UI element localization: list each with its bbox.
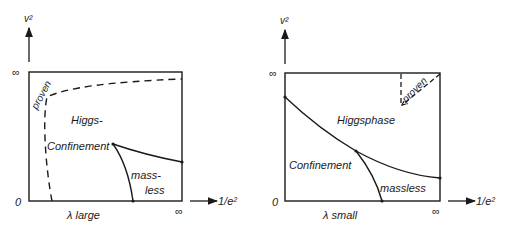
- right-x-right-tick: ∞: [432, 205, 440, 217]
- left-y-top-tick: ∞: [12, 66, 20, 78]
- left-higgs-label: Higgs-: [71, 114, 103, 126]
- right-massless-label: massless: [380, 182, 426, 194]
- right-confinement-massless-boundary: [356, 151, 382, 201]
- right-caption: λ small: [322, 209, 358, 221]
- left-higgs-massless-boundary: [113, 144, 182, 162]
- left-y-axis-label: v²: [24, 13, 33, 24]
- left-y-origin-tick: 0: [15, 196, 22, 208]
- right-confinement-label: Confinement: [289, 159, 352, 171]
- left-phase-diagram: v² ∞ 0 ∞ 1/e² λ large proven Higgs- Conf…: [12, 13, 237, 221]
- left-massless-label-2: less: [145, 184, 165, 196]
- left-caption: λ large: [66, 209, 100, 221]
- right-phase-diagram: v² ∞ 0 ∞ 1/e² λ small proven Higgsphase …: [269, 15, 495, 221]
- phase-diagrams: v² ∞ 0 ∞ 1/e² λ large proven Higgs- Conf…: [0, 0, 514, 234]
- right-y-top-tick: ∞: [269, 67, 277, 79]
- left-confinement-label: Confinement: [47, 140, 110, 152]
- right-x-axis-label: 1/e²: [476, 195, 495, 207]
- right-proven-label: proven: [399, 75, 429, 105]
- left-x-axis-label: 1/e²: [218, 195, 237, 207]
- right-y-axis-label: v²: [280, 15, 289, 26]
- left-proven-label: proven: [29, 78, 54, 111]
- left-box: [29, 72, 182, 201]
- left-massless-label-1: mass-: [131, 169, 161, 181]
- right-y-origin-tick: 0: [272, 196, 279, 208]
- left-confinement-massless-boundary: [113, 144, 133, 201]
- right-higgs-label: Higgsphase: [337, 114, 395, 126]
- left-x-right-tick: ∞: [175, 205, 183, 217]
